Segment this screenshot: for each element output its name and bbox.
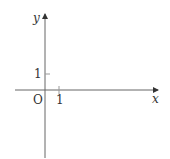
y-axis-label: y [32,11,40,25]
origin-label: O [33,93,43,107]
x-tick-label: 1 [56,93,64,107]
y-tick-label: 1 [34,67,42,81]
coordinate-plane: y x O 1 1 [0,0,170,159]
x-axis-label: x [152,92,159,106]
